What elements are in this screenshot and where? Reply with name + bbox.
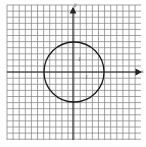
y-unit-tick-label: 1 xyxy=(78,57,81,62)
x-axis-label: x xyxy=(141,69,144,74)
x-unit-tick-label: 1 xyxy=(85,75,88,80)
y-axis-arrow-icon xyxy=(71,8,76,13)
coordinate-diagram xyxy=(0,0,146,147)
y-axis-label: y xyxy=(74,2,77,7)
